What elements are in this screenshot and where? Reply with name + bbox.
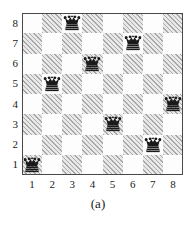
y-axis-tick-7: 7 — [4, 38, 18, 49]
y-axis-tick-3: 3 — [4, 119, 18, 130]
x-axis-tick-7: 7 — [143, 179, 163, 190]
x-axis-tick-2: 2 — [42, 179, 62, 190]
x-axis-tick-8: 8 — [163, 179, 183, 190]
x-axis-tick-6: 6 — [123, 179, 143, 190]
y-axis-tick-1: 1 — [4, 159, 18, 170]
y-axis-tick-2: 2 — [4, 139, 18, 150]
x-axis-tick-4: 4 — [82, 179, 102, 190]
y-axis-tick-8: 8 — [4, 18, 18, 29]
board-border — [22, 13, 183, 175]
y-axis-tick-4: 4 — [4, 99, 18, 110]
y-axis-tick-5: 5 — [4, 78, 18, 89]
chessboard-figure: 87654321 12345678 (a) — [0, 0, 196, 227]
chessboard — [22, 13, 183, 175]
x-axis-tick-1: 1 — [22, 179, 42, 190]
figure-caption: (a) — [0, 196, 196, 211]
y-axis-tick-6: 6 — [4, 58, 18, 69]
x-axis-tick-5: 5 — [103, 179, 123, 190]
x-axis-tick-3: 3 — [62, 179, 82, 190]
